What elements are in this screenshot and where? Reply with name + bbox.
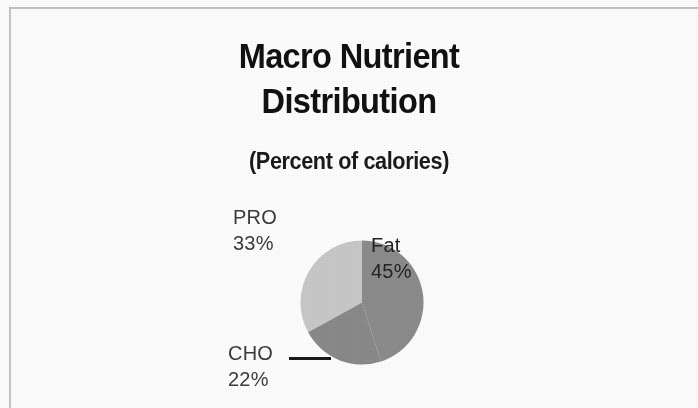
- pie-label-cho: CHO 22%: [228, 340, 273, 392]
- pie-label-fat-name: Fat: [371, 232, 412, 258]
- chart-subtitle: (Percent of calories): [21, 146, 677, 176]
- pie-label-fat: Fat 45%: [371, 232, 412, 284]
- chart-title: Macro Nutrient Distribution: [24, 33, 673, 123]
- pie-label-fat-value: 45%: [371, 258, 412, 284]
- pie-label-pro: PRO 33%: [233, 204, 277, 256]
- pie-label-cho-value: 22%: [228, 366, 273, 392]
- pie-chart-figure: Macro Nutrient Distribution (Percent of …: [0, 0, 698, 408]
- pie-label-cho-name: CHO: [228, 340, 273, 366]
- cho-leader-line: [289, 357, 331, 360]
- scanned-page: Macro Nutrient Distribution (Percent of …: [0, 0, 698, 408]
- pie-label-pro-value: 33%: [233, 230, 277, 256]
- chart-title-line-1: Macro Nutrient: [24, 33, 673, 78]
- pie-label-pro-name: PRO: [233, 204, 277, 230]
- chart-title-line-2: Distribution: [24, 78, 673, 123]
